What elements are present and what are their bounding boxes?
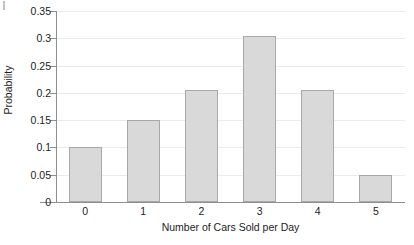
bar [127,120,160,202]
x-axis-title: Number of Cars Sold per Day [56,221,405,233]
y-tick-label: 0.35 [0,6,51,17]
y-axis-line [56,11,57,203]
x-axis-line [40,202,405,203]
bar [185,90,218,202]
x-tick-label: 0 [65,206,105,217]
bar [69,147,102,202]
x-tick-label: 2 [181,206,221,217]
x-tick-label: 1 [123,206,163,217]
bar [359,175,392,202]
plot-area [56,11,405,202]
bar [301,90,334,202]
y-tick-label: 0.05 [0,170,51,181]
bars-layer [56,11,405,202]
x-tick-label: 3 [240,206,280,217]
y-axis-title: Probability [2,35,14,145]
bar [243,36,276,202]
y-tick-label: 0 [0,197,51,208]
x-tick-label: 5 [356,206,396,217]
bar-chart: 00.050.10.150.20.250.30.35 012345 Probab… [0,0,414,245]
x-tick-label: 4 [298,206,338,217]
